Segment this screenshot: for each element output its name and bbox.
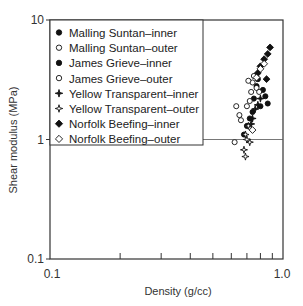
data-point [244,104,249,109]
data-point [265,101,270,106]
data-point [267,44,274,51]
legend-item-label: Norfolk Beefing–inner [69,118,180,130]
data-point [232,140,237,145]
filled-circle-marker-icon [56,30,61,35]
x-axis [120,253,272,259]
legend-item-label: James Grieve–inner [69,57,172,69]
legend-item-label: Malling Suntan–inner [69,27,177,39]
y-axis-title: Shear modulus (MPa) [7,87,19,194]
data-point [242,153,249,160]
scatter-chart: 10 1 0.1 Shear modulus (MPa) 0.1 1.0 Den… [0,0,303,306]
legend-item-label: Malling Suntan–outer [69,42,178,54]
legend-item-label: Yellow Transparent–outer [69,103,199,115]
y-tick-label-1: 1 [37,133,44,147]
data-point [263,76,270,83]
x-tick-label-1.0: 1.0 [274,267,291,281]
data-point [249,89,254,94]
x-axis-title: Density (g/cc) [144,285,211,297]
data-point [238,118,243,123]
data-point [237,113,242,118]
open-circle-marker-icon [56,75,61,80]
y-tick-label-10: 10 [31,13,45,27]
x-tick-label-0.1: 0.1 [44,267,61,281]
legend: Malling Suntan–innerMalling Suntan–outer… [50,20,203,145]
legend-item-label: Yellow Transparent–inner [69,88,199,100]
data-points [232,44,273,160]
open-circle-marker-icon [56,45,61,50]
data-point [240,146,247,153]
legend-item-label: James Grieve–outer [69,73,173,85]
y-tick-label-0.1: 0.1 [27,252,44,266]
data-point [249,127,256,134]
data-point [257,89,262,94]
filled-circle-marker-icon [56,60,61,65]
data-point [234,104,239,109]
legend-item-label: Norfolk Beefing–outer [69,133,180,145]
data-point [264,51,271,58]
data-point [247,98,252,103]
data-point [246,78,251,83]
